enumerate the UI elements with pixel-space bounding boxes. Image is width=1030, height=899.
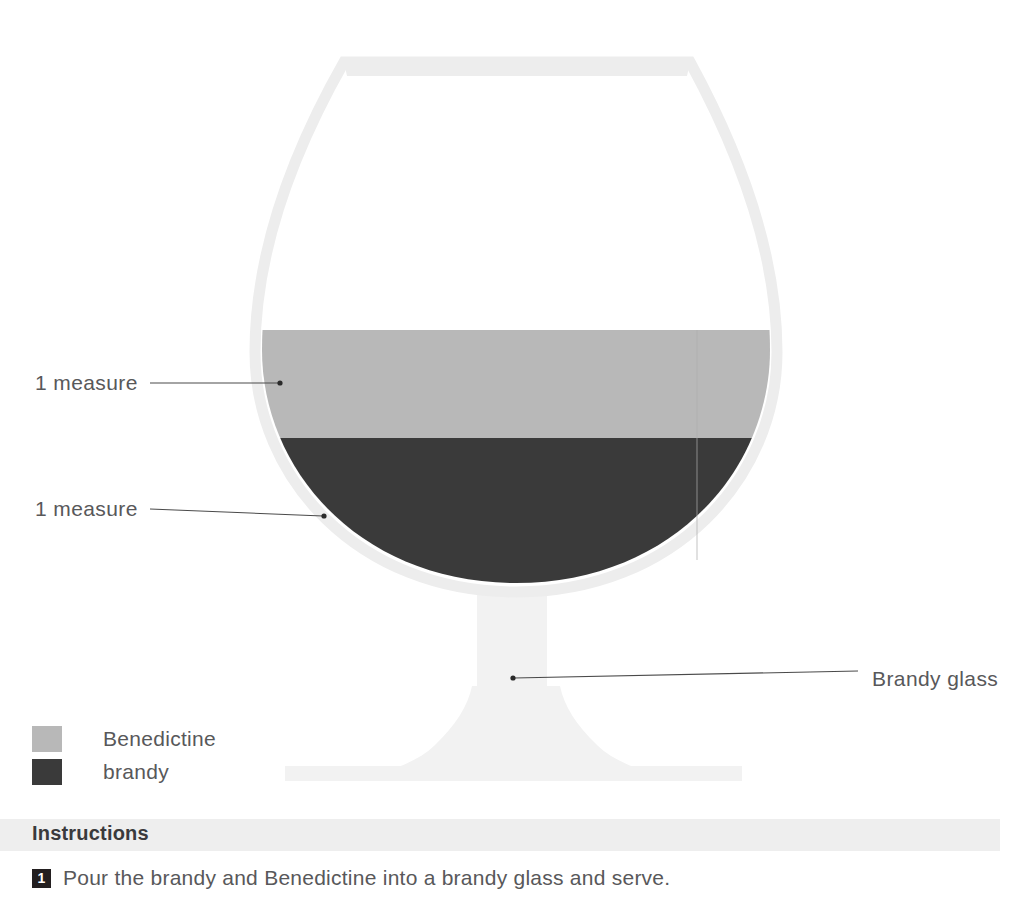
legend-label-brandy: brandy: [103, 760, 169, 784]
step-number-badge: 1: [32, 869, 51, 888]
recipe-illustration-page: 1 measure 1 measure Brandy glass Benedic…: [0, 0, 1030, 899]
callout-label-benedictine-measure: 1 measure: [35, 371, 138, 395]
legend-label-benedictine: Benedictine: [103, 727, 216, 751]
instruction-step-1: 1 Pour the brandy and Benedictine into a…: [32, 866, 670, 890]
liquid-layer-benedictine: [240, 330, 800, 438]
glass-rim: [344, 62, 690, 76]
instructions-band: [0, 819, 1000, 851]
legend-item-brandy: brandy: [32, 755, 362, 788]
legend-swatch-benedictine: [32, 726, 62, 752]
callout-label-glass-name: Brandy glass: [872, 667, 998, 691]
instructions-heading: Instructions: [32, 822, 149, 845]
legend-swatch-brandy: [32, 759, 62, 785]
callout-label-brandy-measure: 1 measure: [35, 497, 138, 521]
legend-item-benedictine: Benedictine: [32, 722, 362, 755]
legend: Benedictine brandy: [32, 722, 362, 788]
step-text: Pour the brandy and Benedictine into a b…: [63, 866, 670, 890]
